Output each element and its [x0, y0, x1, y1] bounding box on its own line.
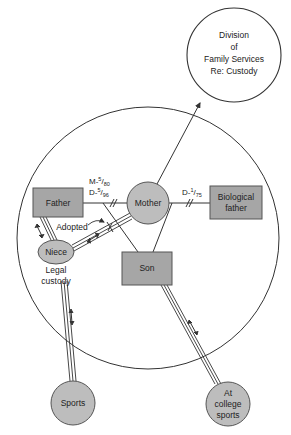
- college-sports-line-3: sports: [216, 410, 239, 420]
- biological-father-line-1: Biological: [218, 192, 254, 202]
- marriage-den: 80: [104, 181, 110, 187]
- biological-father-line-2: father: [225, 203, 247, 213]
- adopted-arrow-icon: [88, 221, 104, 225]
- divorce-bio-annotation: D-1/75: [182, 187, 202, 198]
- son-college-sports-strong-line: [161, 285, 221, 384]
- division-line-4: Re: Custody: [211, 66, 259, 76]
- adopted-label: Adopted: [56, 222, 88, 232]
- biological-father-node: Biological father: [210, 186, 262, 219]
- marriage-annotation: M-5/80: [89, 176, 110, 187]
- bidirectional-arrow-icon: [69, 309, 74, 325]
- division-line-2: of: [230, 42, 238, 52]
- legal-custody-line-2: custody: [41, 276, 71, 286]
- niece-sports-strong-line: [61, 281, 76, 381]
- mother-niece-strong-line: [72, 213, 132, 251]
- divorce-father-annotation: D-5/96: [89, 187, 109, 198]
- divorce-father-prefix: D-: [89, 188, 98, 197]
- college-sports-line-2: college: [215, 399, 242, 409]
- svg-text:D-5/96: D-5/96: [89, 187, 109, 198]
- division-line-1: Division: [219, 30, 249, 40]
- college-sports-node: At college sports: [206, 382, 250, 426]
- ecomap-diagram: Division of Family Services Re: Custody: [0, 0, 291, 435]
- divorce-bio-den: 75: [196, 192, 202, 198]
- mother-division-arrow: [157, 103, 200, 184]
- mother-node: Mother: [127, 182, 169, 224]
- niece-label: Niece: [45, 247, 67, 257]
- bidirectional-arrow-icon: [87, 233, 99, 243]
- bidirectional-arrow-icon: [35, 224, 44, 238]
- son-label: Son: [139, 263, 154, 273]
- division-family-services-node: Division of Family Services Re: Custody: [187, 8, 281, 102]
- sports-label: Sports: [61, 398, 86, 408]
- father-label: Father: [46, 198, 71, 208]
- divorce-father-den: 96: [103, 192, 109, 198]
- son-node: Son: [122, 252, 172, 285]
- mother-label: Mother: [135, 198, 162, 208]
- father-node: Father: [33, 188, 83, 217]
- marriage-prefix: M-: [89, 177, 99, 186]
- svg-text:D-1/75: D-1/75: [182, 187, 202, 198]
- legal-custody-line-1: Legal: [46, 265, 67, 275]
- svg-text:M-5/80: M-5/80: [89, 176, 110, 187]
- adoption-cross-icon: [107, 222, 113, 232]
- division-line-3: Family Services: [204, 54, 264, 64]
- college-sports-line-1: At: [224, 388, 233, 398]
- divorce-bio-prefix: D-: [182, 188, 191, 197]
- niece-node: Niece: [38, 240, 74, 264]
- sports-node: Sports: [51, 381, 95, 425]
